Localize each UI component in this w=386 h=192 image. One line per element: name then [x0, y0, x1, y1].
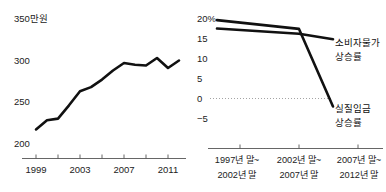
y-tick-label-200: 200 [14, 138, 30, 149]
x-tick-label-2003: 2003 [69, 164, 90, 175]
x-category-label-2-line2: 2007년 말 [280, 169, 320, 180]
y-tick-label-10: 10 [197, 53, 208, 64]
cpi-inflation-data-line [217, 29, 333, 40]
x-category-label-3-line1: 2007년 말~ [337, 154, 381, 165]
x-category-label-1-line2: 2002년 말 [218, 169, 258, 180]
series-label-realwage-line1: 실질임금 [335, 103, 371, 114]
x-tick-label-2007: 2007 [113, 164, 134, 175]
y-axis-unit-label: 350만원 [14, 13, 48, 24]
y-tick-label-20: 20% [197, 13, 217, 24]
series-label-cpi-line1: 소비자물가 [335, 37, 380, 48]
y-tick-label-minus5: −5 [197, 113, 208, 124]
x-category-label-2-line1: 2002년 말~ [277, 154, 321, 165]
series-label-cpi-line2: 상승률 [335, 51, 362, 62]
x-category-label-1-line1: 1997년 말~ [215, 154, 259, 165]
y-tick-label-250: 250 [14, 96, 30, 107]
series-label-realwage-line2: 상승률 [335, 117, 362, 128]
monthly-wage-line-chart: 350만원 300 250 200 1999 2003 2007 2011 [0, 0, 193, 192]
y-tick-label-15: 15 [197, 33, 208, 44]
x-category-label-3-line2: 2012년 말 [340, 169, 380, 180]
two-panel-chart-figure: 350만원 300 250 200 1999 2003 2007 2011 [0, 0, 386, 192]
chart-panel-cpi-vs-real-wage: 20% 15 10 5 0 −5 1997년 말~ 2002년 말 2002년 … [193, 0, 386, 192]
x-tick-label-1999: 1999 [25, 164, 46, 175]
x-tick-label-2011: 2011 [158, 164, 178, 175]
y-tick-label-5: 5 [197, 73, 202, 84]
y-tick-label-0: 0 [197, 93, 202, 104]
chart-panel-monthly-wage: 350만원 300 250 200 1999 2003 2007 2011 [0, 0, 193, 192]
cpi-real-wage-line-chart: 20% 15 10 5 0 −5 1997년 말~ 2002년 말 2002년 … [193, 0, 386, 192]
y-tick-label-300: 300 [14, 55, 30, 66]
wage-data-line [36, 58, 179, 129]
